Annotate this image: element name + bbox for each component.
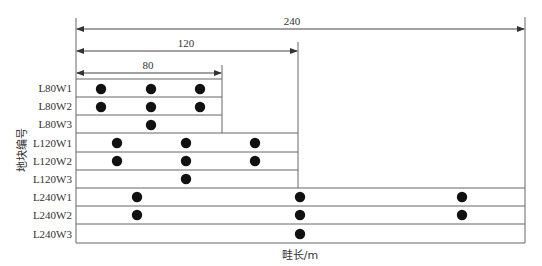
sample-point bbox=[295, 229, 305, 239]
sample-point bbox=[96, 102, 106, 112]
y-axis-label: 地块编号 bbox=[15, 128, 29, 172]
sample-point bbox=[112, 138, 122, 148]
sample-point bbox=[295, 192, 305, 202]
dimension-label-120: 120 bbox=[178, 37, 195, 49]
sample-point bbox=[295, 210, 305, 220]
x-axis-label: 畦长/m bbox=[282, 249, 318, 262]
dimension-label-240: 240 bbox=[284, 15, 301, 27]
row-label: L120W1 bbox=[33, 137, 72, 149]
sample-point bbox=[146, 84, 156, 94]
row-label: L80W1 bbox=[38, 82, 72, 94]
sample-point bbox=[132, 210, 142, 220]
dimension-label-80: 80 bbox=[143, 59, 155, 71]
row-label: L80W3 bbox=[38, 118, 72, 130]
sample-point bbox=[96, 84, 106, 94]
sample-point bbox=[250, 156, 260, 166]
sample-point bbox=[112, 156, 122, 166]
sample-point bbox=[181, 156, 191, 166]
row-label: L120W2 bbox=[33, 155, 72, 167]
sample-point bbox=[195, 84, 205, 94]
row-label: L240W1 bbox=[33, 191, 72, 203]
sample-point bbox=[146, 102, 156, 112]
row-label: L80W2 bbox=[38, 100, 72, 112]
sample-point bbox=[457, 192, 467, 202]
sample-point bbox=[146, 120, 156, 130]
sample-point bbox=[457, 210, 467, 220]
row-label: L240W3 bbox=[33, 228, 73, 240]
row-label: L240W2 bbox=[33, 209, 72, 221]
sample-point bbox=[181, 174, 191, 184]
sample-point bbox=[250, 138, 260, 148]
row-label: L120W3 bbox=[33, 173, 73, 185]
sample-point bbox=[181, 138, 191, 148]
plot-layout-diagram: 240 120 80 L80W1 L80W2 L80W3 L120W1 L120… bbox=[0, 0, 542, 266]
sample-point bbox=[132, 192, 142, 202]
sample-point bbox=[195, 102, 205, 112]
